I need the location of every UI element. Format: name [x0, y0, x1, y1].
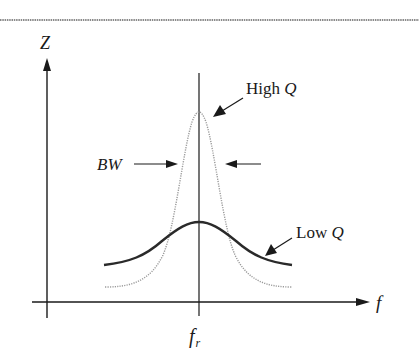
low-q-label-prefix: Low	[296, 223, 331, 242]
high-q-pointer-shaft	[222, 98, 243, 111]
bw-right-arrow-icon	[225, 160, 237, 168]
resonance-curve-diagram: Z f fr BW High Q Low Q	[0, 0, 419, 361]
high-q-label-prefix: High	[246, 79, 284, 98]
y-axis-label: Z	[40, 34, 50, 52]
resonant-frequency-label-main: f	[189, 325, 195, 347]
low-q-pointer-arrow-icon	[265, 244, 277, 256]
x-axis-arrow-icon	[356, 298, 370, 306]
bw-left-arrow-icon	[166, 160, 178, 168]
high-q-label-var: Q	[284, 79, 296, 98]
diagram-canvas	[0, 0, 419, 361]
high-q-pointer-arrow-icon	[213, 105, 226, 117]
low-q-label: Low Q	[296, 224, 344, 241]
x-axis-label: f	[376, 293, 381, 312]
low-q-pointer-shaft	[273, 238, 292, 250]
high-q-label: High Q	[246, 80, 297, 97]
y-axis-arrow-icon	[43, 58, 51, 71]
resonant-frequency-label-subscript: r	[196, 336, 201, 350]
low-q-curve	[104, 222, 292, 265]
resonant-frequency-label: fr	[189, 326, 199, 346]
low-q-label-var: Q	[331, 223, 343, 242]
bandwidth-label: BW	[97, 156, 122, 173]
